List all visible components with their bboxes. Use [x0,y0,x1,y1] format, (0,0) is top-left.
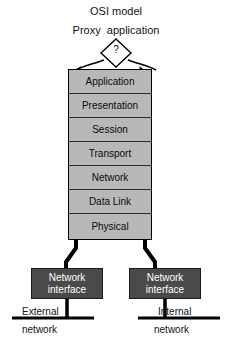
internal-network-label-line2: network [154,324,189,335]
osi-layer-transport: Transport [69,142,151,166]
osi-layer-data-link: Data Link [69,190,151,214]
network-interface-internal: Network interface [129,268,201,299]
proxy-diamond-label: ? [104,44,128,55]
connector-stack-to-internal-nic [145,240,155,269]
connector-stack-to-external-nic [66,240,76,269]
internal-network-label-line1: Internal [158,306,191,317]
external-network-label-line1: External [22,306,59,317]
osi-layer-stack: Application Presentation Session Transpo… [68,69,152,240]
external-network-label-line2: network [22,324,57,335]
nic-internal-line1: Network [147,272,184,284]
osi-layer-application: Application [69,70,151,94]
nic-internal-line2: interface [146,284,184,296]
network-interface-external: Network interface [31,268,103,299]
osi-layer-presentation: Presentation [69,94,151,118]
osi-layer-network: Network [69,166,151,190]
osi-layer-session: Session [69,118,151,142]
nic-external-line2: interface [48,284,86,296]
osi-proxy-diagram: OSI model Proxy application ? Applicatio… [0,0,232,344]
osi-layer-physical: Physical [69,214,151,238]
nic-external-line1: Network [49,272,86,284]
